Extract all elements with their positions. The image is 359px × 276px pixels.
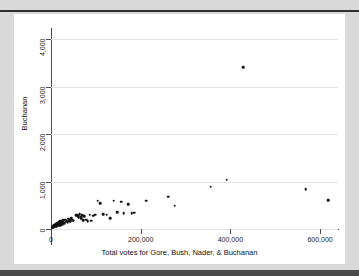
- scatter-point: [105, 213, 108, 216]
- y-tick-mark: [46, 134, 51, 135]
- scatter-point: [72, 219, 75, 222]
- y-tick-mark: [46, 87, 51, 88]
- plot-area: [51, 30, 338, 229]
- y-tick-mark: [46, 39, 51, 40]
- scatter-point: [116, 211, 119, 214]
- x-tick-mark: [320, 229, 321, 234]
- scatter-point: [86, 220, 89, 223]
- y-tick-label: 1,000: [40, 181, 47, 199]
- scatter-point: [173, 204, 176, 207]
- gridline-y: [51, 182, 338, 183]
- gridline-y: [51, 134, 338, 135]
- x-tick-mark: [141, 229, 142, 234]
- y-tick-label: 2,000: [40, 134, 47, 152]
- scatter-point: [120, 200, 123, 203]
- scatter-point: [90, 219, 93, 222]
- top-divider-rule: [0, 10, 359, 12]
- scatter-point: [304, 188, 307, 191]
- gridline-y: [51, 87, 338, 88]
- scatter-point: [102, 213, 105, 216]
- gridline-y: [51, 39, 338, 40]
- scatter-point: [122, 212, 125, 215]
- scatter-point: [327, 199, 330, 202]
- scatter-point: [133, 212, 136, 215]
- scatter-point: [88, 213, 91, 216]
- scatter-point: [127, 203, 130, 206]
- scatter-point: [109, 217, 112, 220]
- x-tick-label: 200,000: [128, 236, 153, 243]
- gridline-y: [51, 229, 338, 230]
- scatter-point: [94, 213, 97, 216]
- scatter-point: [145, 199, 148, 202]
- x-tick-label: 0: [49, 236, 53, 243]
- y-axis-title: Buchanan: [20, 97, 29, 131]
- scatter-chart-figure: 01,0002,0003,0004,000 0200,000400,000600…: [14, 14, 345, 264]
- scatter-point: [225, 178, 228, 181]
- x-tick-mark: [51, 229, 52, 234]
- y-tick-mark: [46, 182, 51, 183]
- bottom-divider-rule: [0, 270, 359, 276]
- y-tick-label: 3,000: [40, 86, 47, 104]
- x-tick-label: 400,000: [218, 236, 243, 243]
- x-tick-label: 600,000: [307, 236, 332, 243]
- scatter-point: [112, 199, 115, 202]
- scatter-point: [209, 186, 212, 189]
- scatter-point: [167, 195, 170, 198]
- y-axis-line: [51, 28, 52, 245]
- x-axis-title: Total votes for Gore, Bush, Nader, & Buc…: [14, 248, 345, 257]
- scatter-point: [83, 215, 86, 218]
- scatter-point: [99, 202, 102, 205]
- y-tick-label: 0: [40, 229, 47, 233]
- x-tick-mark: [230, 229, 231, 234]
- scatter-point: [242, 66, 245, 69]
- y-tick-label: 4,000: [40, 39, 47, 57]
